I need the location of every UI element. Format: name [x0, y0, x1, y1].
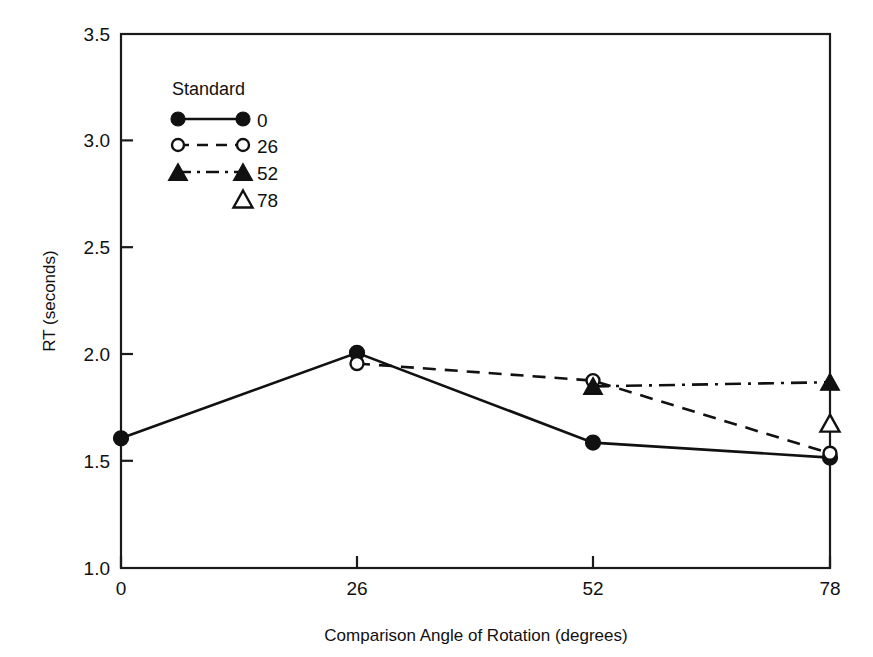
y-tick-label: 3.5 — [84, 24, 110, 45]
x-axis-title: Comparison Angle of Rotation (degrees) — [324, 626, 627, 645]
x-axis-ticks — [121, 556, 830, 568]
legend-marker-26-start — [172, 139, 184, 151]
series-52-group — [584, 373, 840, 394]
legend-item-26: 26 — [172, 136, 278, 157]
legend-label-52: 52 — [257, 163, 278, 184]
plot-frame — [121, 34, 830, 568]
chart-plot-area: 3.5 3.0 2.5 2.0 1.5 1.0 0 26 52 78 RT (s… — [0, 0, 873, 657]
y-axis-tick-labels: 3.5 3.0 2.5 2.0 1.5 1.0 — [84, 24, 110, 579]
y-tick-label: 1.5 — [84, 451, 110, 472]
series-26-point — [351, 357, 364, 370]
series-78-point — [821, 415, 840, 432]
legend-marker-0-end — [236, 112, 250, 126]
series-26-point — [824, 447, 837, 460]
legend-label-78: 78 — [257, 190, 278, 211]
x-tick-label: 26 — [346, 578, 367, 599]
x-tick-label: 0 — [116, 578, 127, 599]
legend-label-26: 26 — [257, 136, 278, 157]
legend-marker-0-start — [171, 112, 185, 126]
y-tick-label: 2.5 — [84, 237, 110, 258]
chart-figure: 3.5 3.0 2.5 2.0 1.5 1.0 0 26 52 78 RT (s… — [0, 0, 873, 657]
legend-title: Standard — [172, 79, 245, 99]
series-0-group — [114, 345, 838, 465]
series-52-line — [593, 382, 830, 386]
legend-item-52: 52 — [169, 163, 279, 184]
series-0-point — [114, 431, 129, 446]
legend-label-0: 0 — [257, 110, 268, 131]
y-tick-label: 2.0 — [84, 344, 110, 365]
legend-marker-26-end — [237, 139, 249, 151]
legend-item-78: 78 — [234, 190, 279, 211]
y-axis-title: RT (seconds) — [40, 250, 59, 351]
chart-legend: Standard 0 26 52 — [169, 79, 279, 211]
y-tick-label: 1.0 — [84, 558, 110, 579]
series-0-line — [121, 353, 830, 458]
series-78-group — [821, 415, 840, 432]
x-tick-label: 78 — [819, 578, 840, 599]
series-0-point — [586, 435, 601, 450]
y-tick-label: 3.0 — [84, 130, 110, 151]
x-axis-tick-labels: 0 26 52 78 — [116, 578, 841, 599]
legend-item-0: 0 — [171, 110, 268, 131]
y-axis-ticks — [121, 140, 133, 460]
legend-marker-78 — [234, 191, 253, 208]
x-tick-label: 52 — [582, 578, 603, 599]
series-52-point — [821, 373, 840, 390]
